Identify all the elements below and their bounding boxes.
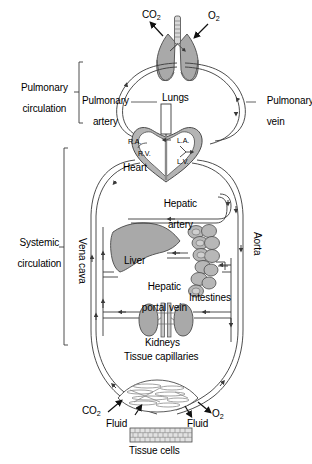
liver-venous-return [103,272,118,277]
co2-tissue-text: CO [82,405,97,416]
pulmonary-vein-line1: Pulmonary [267,95,312,106]
bracket-label-pulmonary-circulation: Pulmonary circulation [8,72,70,126]
bracket-label-systemic-circulation: Systemic circulation [6,227,62,281]
label-co2-tissue: CO2 [82,406,101,417]
label-hepatic-artery: Hepatic artery [145,188,205,242]
o2-tissue-subscript: 2 [220,412,224,421]
label-pulmonary-artery: Pulmonary artery [69,85,131,139]
label-fluid-left: Fluid [106,419,127,430]
label-lungs: Lungs [162,93,189,104]
circulatory-system-diagram: Pulmonary circulation Systemic circulati… [0,0,312,464]
co2-tissue-subscript: 2 [97,409,101,418]
label-intestines: Intestines [189,293,231,304]
label-liver: Liver [124,256,145,267]
systemic-circulation-line1: Systemic [19,237,59,248]
pulmonary-vein-line2: vein [267,116,285,127]
label-heart: Heart [123,163,147,174]
label-o2-lungs: O2 [208,11,220,22]
label-tissue-capillaries: Tissue capillaries [124,352,199,363]
o2-lungs-text: O [208,10,216,21]
label-right-ventricle: R.V. [138,150,151,158]
label-hepatic-portal-vein: Hepatic portal vein [122,271,196,325]
co2-arrow-lungs [151,23,163,36]
pulmonary-circulation-line1: Pulmonary [21,82,68,93]
label-fluid-right: Fluid [187,419,208,430]
label-left-atrium: L.A. [177,137,189,145]
o2-lungs-subscript: 2 [216,14,220,23]
tissue-cells-strip [130,428,192,442]
label-co2-lungs: CO2 [142,10,161,21]
label-left-ventricle: L.V. [177,158,188,166]
pulmonary-circulation-line2: circulation [22,103,66,114]
o2-tissue-text: O [212,408,220,419]
label-aorta: Aorta [251,232,262,255]
hepatic-artery-line1: Hepatic [164,198,197,209]
o2-arrow-lungs [195,24,208,37]
pulmonary-artery-line1: Pulmonary [82,95,129,106]
label-tissue-cells: Tissue cells [129,446,180,457]
label-kidneys: Kidneys [145,338,180,349]
label-right-atrium: R.A. [128,138,141,146]
pulmonary-artery-line2: artery [93,116,118,127]
hepatic-portal-vein-line1: Hepatic [148,281,181,292]
lungs-organ [157,16,199,81]
co2-lungs-text: CO [142,9,157,20]
label-o2-tissue: O2 [212,409,224,420]
systemic-circulation-line2: circulation [17,258,61,269]
label-pulmonary-vein: Pulmonary vein [256,85,312,139]
label-vena-cava: Vena cava [76,238,87,284]
hepatic-artery-line2: artery [168,219,193,230]
hepatic-portal-vein-line2: portal vein [142,302,187,313]
co2-lungs-subscript: 2 [157,13,161,22]
